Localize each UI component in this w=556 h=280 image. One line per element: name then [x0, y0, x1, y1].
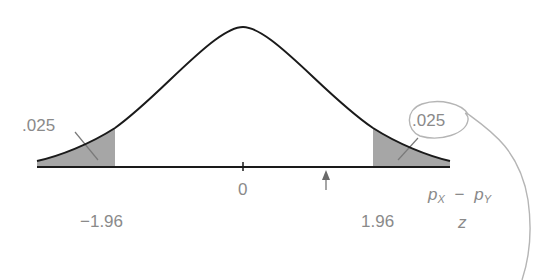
sub-y: Y	[484, 193, 491, 205]
p-y: p	[474, 185, 483, 204]
z-axis-label: z	[458, 214, 467, 231]
up-arrow-icon	[322, 170, 330, 190]
minus-sign: −	[455, 185, 465, 204]
left-area-label: .025	[22, 117, 55, 134]
right-area-label: .025	[412, 112, 445, 129]
diff-proportions-axis-label: pX − pY	[428, 186, 491, 203]
sub-x: X	[437, 193, 444, 205]
neg-critical-label: −1.96	[80, 213, 123, 230]
normal-curve-chart	[0, 0, 556, 280]
zero-tick-label: 0	[238, 181, 247, 198]
pos-critical-label: 1.96	[361, 213, 394, 230]
